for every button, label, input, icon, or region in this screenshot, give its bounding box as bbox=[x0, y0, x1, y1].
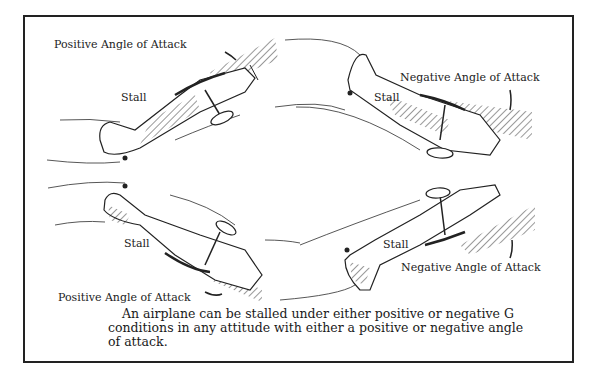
label-top-right-stall: Stall bbox=[374, 91, 400, 104]
airplane-inverted-descending-icon bbox=[348, 54, 533, 159]
label-bottom-left-angle: Positive Angle of Attack bbox=[58, 291, 191, 304]
label-top-left-stall: Stall bbox=[121, 91, 147, 104]
label-top-right-angle: Negative Angle of Attack bbox=[400, 71, 540, 84]
caption-line-3: of attack. bbox=[108, 335, 523, 349]
caption-line-2: conditions in any attitude with either a… bbox=[108, 321, 523, 335]
airplane-climbing-right-icon bbox=[345, 185, 536, 290]
label-top-left-angle: Positive Angle of Attack bbox=[54, 38, 187, 51]
label-bottom-left-stall: Stall bbox=[124, 237, 150, 250]
label-bottom-right-angle: Negative Angle of Attack bbox=[401, 261, 541, 274]
figure-caption: An airplane can be stalled under either … bbox=[108, 307, 523, 349]
caption-line-1: An airplane can be stalled under either … bbox=[108, 307, 523, 321]
label-bottom-right-stall: Stall bbox=[383, 238, 409, 251]
